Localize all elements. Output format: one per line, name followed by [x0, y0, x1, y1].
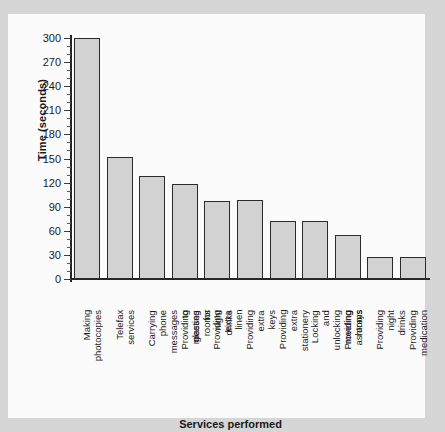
bar	[172, 184, 198, 279]
y-tick-label: 90	[49, 201, 61, 213]
y-tick-label: 120	[43, 177, 61, 189]
category-label: Providing night drinks	[374, 310, 407, 350]
y-minor-tick	[67, 191, 71, 192]
bar-chart-figure: Time (seconds) 0306090120150180210240270…	[0, 0, 445, 432]
y-tick-mark	[64, 62, 71, 63]
y-minor-tick	[67, 223, 71, 224]
bar	[107, 157, 133, 279]
category-label: Telefax services	[114, 310, 136, 345]
y-minor-tick	[67, 142, 71, 143]
bar	[139, 176, 165, 279]
bar	[335, 235, 361, 279]
y-minor-tick	[67, 175, 71, 176]
y-minor-tick	[67, 199, 71, 200]
y-tick-mark	[64, 255, 71, 256]
y-minor-tick	[67, 150, 71, 151]
y-tick-mark	[64, 134, 71, 135]
y-minor-tick	[67, 239, 71, 240]
y-tick-label: 180	[43, 128, 61, 140]
bar	[400, 257, 426, 279]
y-tick-label: 0	[55, 273, 61, 285]
bar	[270, 221, 296, 279]
y-minor-tick	[67, 215, 71, 216]
y-minor-tick	[67, 102, 71, 103]
bar	[204, 201, 230, 279]
y-tick-mark	[64, 207, 71, 208]
y-minor-tick	[67, 54, 71, 55]
y-tick-label: 300	[43, 32, 61, 44]
x-axis-title: Services performed	[8, 418, 445, 430]
y-tick-mark	[64, 183, 71, 184]
category-label: Providing extra linen	[211, 310, 244, 350]
y-tick-mark	[64, 86, 71, 87]
category-label: Providing ashtrays	[342, 310, 364, 350]
y-tick-mark	[64, 110, 71, 111]
y-tick-mark	[64, 38, 71, 39]
y-minor-tick	[67, 118, 71, 119]
category-label: Providing extra stationery	[277, 310, 310, 351]
y-tick-label: 30	[49, 249, 61, 261]
category-label: Providing extra keys	[244, 310, 277, 350]
y-tick-label: 210	[43, 104, 61, 116]
plot-area: 0306090120150180210240270300 Making phot…	[71, 38, 429, 279]
y-minor-tick	[67, 126, 71, 127]
y-tick-label: 240	[43, 80, 61, 92]
y-minor-tick	[67, 70, 71, 71]
y-minor-tick	[67, 94, 71, 95]
bar	[74, 38, 100, 279]
y-tick-mark	[64, 159, 71, 160]
category-label: Providing medication	[407, 310, 429, 356]
y-minor-tick	[67, 247, 71, 248]
y-minor-tick	[67, 167, 71, 168]
y-minor-tick	[67, 46, 71, 47]
y-tick-label: 150	[43, 153, 61, 165]
y-minor-tick	[67, 271, 71, 272]
category-label: Making photocopies	[81, 310, 103, 361]
y-tick-mark	[64, 279, 71, 280]
bar	[367, 257, 393, 279]
bar	[237, 200, 263, 279]
y-tick-label: 270	[43, 56, 61, 68]
bar	[302, 221, 328, 279]
plot-card: Time (seconds) 0306090120150180210240270…	[8, 14, 425, 418]
y-tick-label: 60	[49, 225, 61, 237]
y-minor-tick	[67, 78, 71, 79]
y-tick-mark	[64, 231, 71, 232]
y-minor-tick	[67, 263, 71, 264]
